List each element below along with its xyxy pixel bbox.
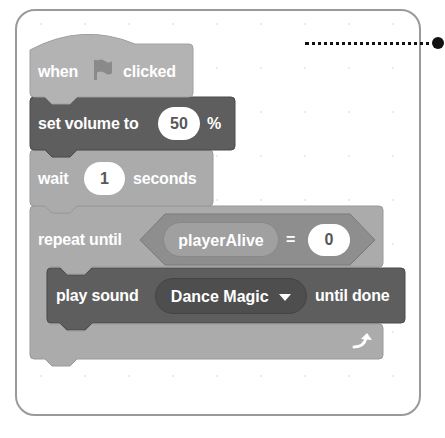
- wait-seconds-input[interactable]: 1: [84, 162, 125, 195]
- dotted-leader-line: [305, 42, 437, 45]
- play-sound-label: play sound: [56, 286, 138, 306]
- player-alive-variable[interactable]: playerAlive: [163, 222, 279, 257]
- compare-value-input[interactable]: 0: [308, 224, 350, 256]
- dropdown-arrow-icon: [279, 294, 291, 301]
- wait-unit-label: seconds: [133, 169, 197, 189]
- set-volume-label: set volume to: [38, 114, 139, 134]
- equals-operator-label: =: [286, 230, 295, 250]
- repeat-until-label: repeat until: [38, 230, 122, 250]
- leader-endpoint-dot: [432, 37, 444, 49]
- until-done-label: until done: [315, 286, 389, 306]
- hat-label-when: when: [38, 62, 78, 82]
- sound-name: Dance Magic: [171, 288, 269, 305]
- volume-input[interactable]: 50: [158, 107, 200, 140]
- hat-label-clicked: clicked: [123, 62, 176, 82]
- volume-unit-label: %: [207, 114, 221, 134]
- sound-dropdown[interactable]: Dance Magic: [155, 278, 307, 314]
- wait-label: wait: [38, 169, 68, 189]
